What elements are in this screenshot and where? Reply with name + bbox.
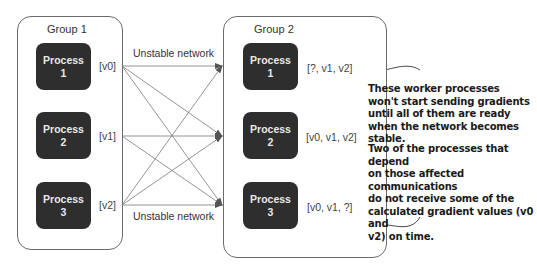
note-line: when the network becomes stable. <box>368 121 537 146</box>
process-number: 3 <box>243 206 298 219</box>
annotation-missing-values: Two of the processes that depend on thos… <box>368 143 537 243</box>
network-label-bottom: Unstable network <box>133 210 214 222</box>
group2-value-2: [v0, v1, v2] <box>306 131 357 143</box>
group2-value-3: [v0, v1, ?] <box>307 201 353 213</box>
note-line: These worker processes <box>368 83 537 96</box>
process-label: Process <box>243 193 298 206</box>
process-number: 1 <box>243 67 298 80</box>
process-label: Process <box>243 54 298 67</box>
note-line: won't start sending gradients <box>368 96 537 109</box>
group2-process-1: Process 1 <box>243 43 298 90</box>
group-2-title: Group 2 <box>254 23 294 35</box>
note-line: Two of the processes that depend <box>368 143 537 168</box>
annotation-stable-wait: These worker processes won't start sendi… <box>368 83 537 146</box>
group2-process-2: Process 2 <box>243 112 298 159</box>
note-line: calculated gradient values (v0 and <box>368 206 537 231</box>
group2-process-3: Process 3 <box>243 182 298 229</box>
process-number: 2 <box>243 136 298 149</box>
process-label: Process <box>243 123 298 136</box>
note-line: do not receive some of the <box>368 193 537 206</box>
note-line: until all of them are ready <box>368 108 537 121</box>
group2-value-1: [?, v1, v2] <box>307 62 353 74</box>
network-label-top: Unstable network <box>133 47 214 59</box>
note-line: on those affected communications <box>368 168 537 193</box>
note-line: v2) on time. <box>368 231 537 244</box>
